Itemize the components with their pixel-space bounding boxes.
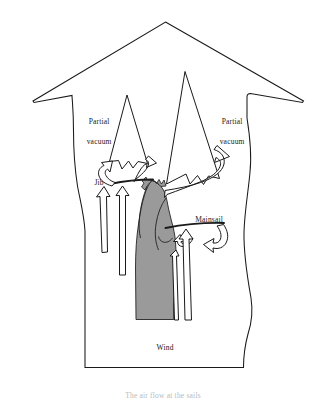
sail-aerodynamics-figure: Partial vacuum Partial vacuum Jib Mainsa… <box>0 0 326 401</box>
diagram-canvas <box>0 0 326 401</box>
figure-caption: The air flow at the sails <box>0 391 326 400</box>
